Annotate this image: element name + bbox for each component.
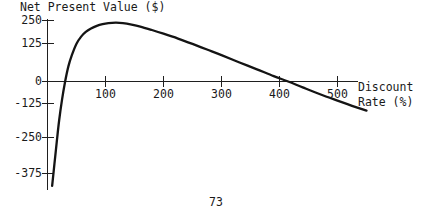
page-number: 73: [0, 196, 432, 209]
y-tick-label-neg125: -125: [0, 97, 42, 110]
npv-chart-figure: 250 125 0 -125 -250 -375 100 200 300 400…: [0, 0, 432, 215]
y-tick-label-125: 125: [4, 37, 42, 50]
x-tick-label-200: 200: [143, 88, 184, 101]
x-tick-label-300: 300: [201, 88, 242, 101]
axes-group: [42, 19, 358, 190]
chart-title: Net Present Value ($): [20, 1, 165, 14]
npv-curve-line: [52, 23, 366, 186]
y-tick-label-250: 250: [4, 14, 42, 27]
x-axis-title-line2: Rate (%): [358, 95, 413, 109]
x-axis-title: DiscountRate (%): [358, 80, 413, 110]
x-axis-title-line1: Discount: [358, 80, 413, 94]
x-tick-label-400: 400: [259, 88, 300, 101]
y-tick-label-neg375: -375: [0, 167, 42, 180]
y-tick-label-neg250: -250: [0, 131, 42, 144]
y-tick-label-0: 0: [4, 75, 42, 88]
x-tick-label-100: 100: [85, 88, 126, 101]
x-tick-label-500: 500: [317, 88, 358, 101]
